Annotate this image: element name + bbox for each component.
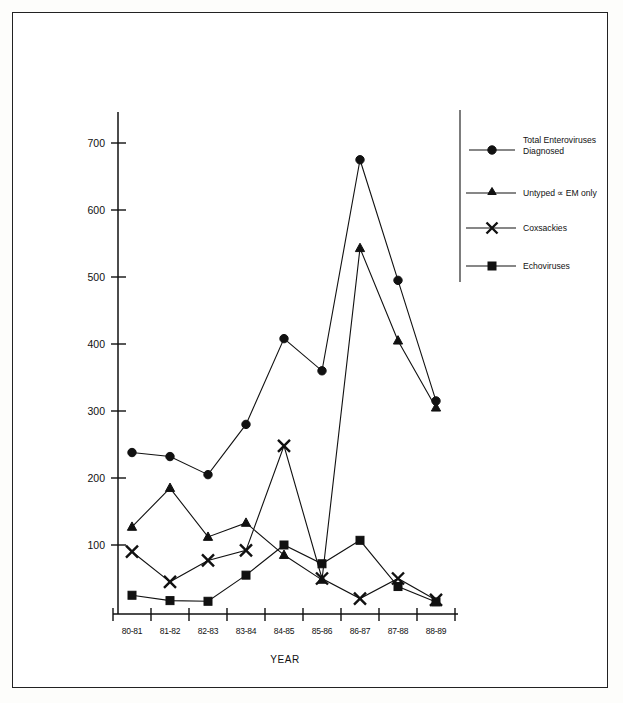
- circle-marker-icon: [166, 452, 174, 460]
- x-label-84-85: 84-85: [274, 626, 295, 636]
- x-label-87-88: 87-88: [388, 626, 409, 636]
- chart-plot-area: 700 600 500 400 300 200 100: [0, 0, 623, 703]
- y-tick-label-100: 100: [87, 539, 105, 551]
- series-total-enteroviruses-diagnosed: [128, 156, 440, 479]
- square-marker-icon: [166, 597, 174, 605]
- triangle-marker-icon: [355, 243, 364, 251]
- line-chart-svg: 700 600 500 400 300 200 100: [0, 0, 623, 703]
- square-marker-icon: [242, 571, 250, 579]
- circle-marker-icon: [488, 146, 496, 154]
- y-tick-label-500: 500: [87, 271, 105, 283]
- legend-item-total-enteroviruses[interactable]: Total Enteroviruses Diagnosed: [469, 135, 596, 156]
- square-marker-icon: [318, 560, 326, 568]
- triangle-marker-icon: [488, 188, 496, 195]
- square-marker-icon: [128, 591, 136, 599]
- page-canvas: 700 600 500 400 300 200 100: [0, 0, 623, 703]
- legend-label-total-enteroviruses-line2: Diagnosed: [523, 146, 564, 156]
- square-marker-icon: [356, 536, 364, 544]
- square-marker-icon: [394, 583, 402, 591]
- legend-item-untyped-em-only[interactable]: Untyped ∝ EM only: [466, 188, 598, 199]
- circle-marker-icon: [318, 367, 326, 375]
- square-marker-icon: [204, 597, 212, 605]
- series-layer: [126, 156, 442, 606]
- series-echoviruses: [128, 536, 440, 606]
- x-marker-icon: [354, 593, 366, 605]
- square-marker-icon: [432, 598, 440, 606]
- legend-item-coxsackies[interactable]: Coxsackies: [466, 223, 567, 234]
- square-marker-icon: [488, 262, 496, 270]
- x-axis-labels: 80-81 81-82 82-83 83-84 84-85 85-86 86-8…: [122, 626, 447, 636]
- x-label-82-83: 82-83: [198, 626, 219, 636]
- chart-legend: Total Enteroviruses Diagnosed Untyped ∝ …: [460, 110, 598, 282]
- legend-label-total-enteroviruses-line1: Total Enteroviruses: [523, 135, 596, 145]
- y-axis-ticks: 700 600 500 400 300 200 100: [87, 137, 126, 551]
- triangle-marker-icon: [279, 550, 288, 558]
- series-line: [132, 248, 436, 580]
- x-marker-icon: [202, 554, 214, 566]
- x-label-80-81: 80-81: [122, 626, 143, 636]
- circle-marker-icon: [356, 156, 364, 164]
- series-untyped-em-only: [127, 243, 440, 583]
- triangle-marker-icon: [165, 483, 174, 491]
- triangle-marker-icon: [393, 336, 402, 344]
- circle-marker-icon: [204, 470, 212, 478]
- x-label-83-84: 83-84: [236, 626, 257, 636]
- y-tick-label-400: 400: [87, 338, 105, 350]
- y-tick-label-200: 200: [87, 472, 105, 484]
- x-axis-title: YEAR: [270, 654, 300, 665]
- series-line: [132, 160, 436, 475]
- legend-item-echoviruses[interactable]: Echoviruses: [466, 261, 570, 271]
- legend-label-untyped-em-only: Untyped ∝ EM only: [523, 188, 598, 198]
- x-label-85-86: 85-86: [312, 626, 333, 636]
- square-marker-icon: [280, 541, 288, 549]
- series-coxsackies: [126, 440, 442, 606]
- x-marker-icon: [164, 576, 176, 588]
- circle-marker-icon: [128, 448, 136, 456]
- x-label-86-87: 86-87: [350, 626, 371, 636]
- x-marker-icon: [278, 440, 290, 452]
- x-label-81-82: 81-82: [160, 626, 181, 636]
- circle-marker-icon: [280, 334, 288, 342]
- y-tick-label-300: 300: [87, 405, 105, 417]
- x-label-88-89: 88-89: [426, 626, 447, 636]
- legend-label-coxsackies: Coxsackies: [523, 223, 567, 233]
- y-tick-label-700: 700: [87, 137, 105, 149]
- circle-marker-icon: [242, 420, 250, 428]
- triangle-marker-icon: [241, 518, 250, 526]
- circle-marker-icon: [394, 276, 402, 284]
- legend-label-echoviruses: Echoviruses: [523, 261, 570, 271]
- x-marker-icon: [240, 544, 252, 556]
- y-tick-label-600: 600: [87, 204, 105, 216]
- x-marker-icon: [126, 546, 138, 558]
